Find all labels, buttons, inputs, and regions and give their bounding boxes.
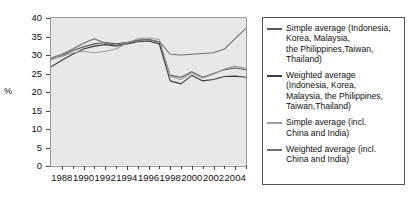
plot-area (50, 17, 247, 167)
x-tick-mark-major (170, 166, 171, 170)
x-tick-mark-minor (138, 166, 139, 169)
y-tick-label: 5 (20, 142, 42, 153)
x-tick-label: 2004 (220, 172, 250, 183)
x-tick-mark-minor (159, 166, 160, 169)
legend-line-swatch (267, 149, 282, 151)
y-tick-label: 20 (20, 86, 42, 97)
series-line (51, 38, 246, 79)
x-tick-mark-minor (116, 166, 117, 169)
legend-entry[interactable]: Simple average (incl. China and India) (267, 117, 401, 138)
x-tick-mark-major (105, 166, 106, 170)
y-tick-label: 35 (20, 31, 42, 42)
y-tick-label: 40 (20, 12, 42, 23)
legend-line-swatch (267, 28, 282, 30)
legend-label: Weighted average (incl. China and India) (286, 144, 376, 165)
y-axis-unit-label: % (4, 86, 12, 96)
x-tick-mark-minor (246, 166, 247, 169)
legend-line-swatch (267, 122, 282, 124)
series-line (51, 28, 246, 58)
legend-label: Simple average (Indonesia, Korea, Malays… (286, 23, 391, 64)
x-tick-mark-major (149, 166, 150, 170)
x-tick-mark-major (84, 166, 85, 170)
legend-entry[interactable]: Weighted average (incl. China and India) (267, 144, 401, 165)
x-tick-mark-minor (224, 166, 225, 169)
legend-entry[interactable]: Weighted average (Indonesia, Korea, Mala… (267, 70, 401, 111)
x-tick-mark-major (62, 166, 63, 170)
x-tick-mark-minor (94, 166, 95, 169)
y-tick-label: 0 (20, 160, 42, 171)
y-tick-label: 25 (20, 68, 42, 79)
y-tick-label: 15 (20, 105, 42, 116)
x-tick-mark-minor (203, 166, 204, 169)
chart-screenshot: % 4035302520151050 198819901992199419961… (0, 0, 409, 217)
x-tick-mark-major (235, 166, 236, 170)
x-tick-mark-minor (181, 166, 182, 169)
x-tick-mark-minor (73, 166, 74, 169)
y-tick-label: 30 (20, 49, 42, 60)
legend-entry[interactable]: Simple average (Indonesia, Korea, Malays… (267, 23, 401, 64)
legend-line-swatch (267, 75, 282, 77)
x-tick-mark-major (192, 166, 193, 170)
chart-legend: Simple average (Indonesia, Korea, Malays… (262, 17, 405, 185)
plot-lines (51, 18, 246, 166)
legend-label: Simple average (incl. China and India) (286, 117, 366, 138)
x-tick-mark-major (214, 166, 215, 170)
y-tick-label: 10 (20, 123, 42, 134)
legend-label: Weighted average (Indonesia, Korea, Mala… (286, 70, 383, 111)
series-line (51, 41, 246, 84)
x-tick-mark-major (127, 166, 128, 170)
